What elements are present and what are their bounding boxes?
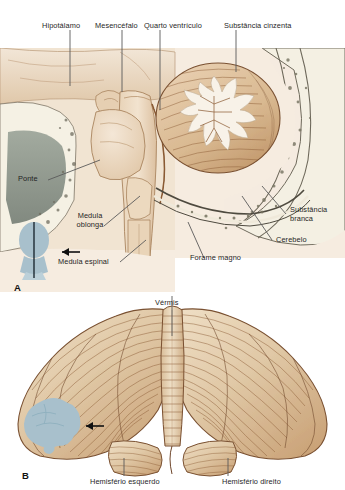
cerebellar-tonsil-right: [183, 441, 237, 476]
label-ponte: Ponte: [18, 175, 38, 184]
label-mesencefalo: Mesencéfalo: [95, 22, 138, 31]
pons: [91, 110, 145, 180]
head-silhouette-icon: [19, 222, 49, 280]
label-substancia-branca: Substância branca: [290, 206, 334, 223]
panel-letter-b: B: [22, 470, 29, 481]
medulla-oblongata: [126, 178, 152, 220]
label-hipotalamo: Hipotálamo: [42, 22, 80, 31]
label-substancia-cinzenta: Substância cinzenta: [224, 22, 292, 31]
cerebellar-hemisphere-right: [173, 309, 327, 459]
panel-b-illustration: [0, 296, 345, 490]
panel-letter-a: A: [14, 282, 21, 293]
label-cerebelo: Cerebelo: [276, 236, 307, 245]
panel-a-illustration: [0, 0, 345, 292]
label-forame-magno: Forame magno: [190, 254, 241, 263]
label-vermis: Vérmis: [155, 299, 178, 308]
label-medula-espinal: Medula espinal: [58, 258, 109, 267]
label-hemisferio-direito: Hemisfério direito: [222, 478, 281, 487]
label-medula-oblonga: Medula oblonga: [68, 212, 112, 229]
label-quarto-ventriculo: Quarto ventrículo: [144, 22, 202, 31]
cerebellar-tonsil-left: [108, 441, 162, 476]
anatomical-figure: Hipotálamo Mesencéfalo Quarto ventrículo…: [0, 0, 345, 490]
label-hemisferio-esquerdo: Hemisfério esquerdo: [90, 478, 160, 487]
vermis: [161, 306, 184, 446]
